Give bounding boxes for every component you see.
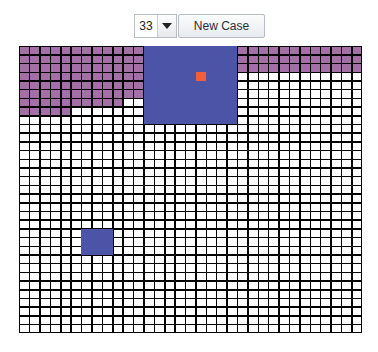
cell-empty[interactable] — [92, 324, 103, 333]
cell-empty[interactable] — [320, 324, 331, 333]
cell-empty[interactable] — [227, 324, 238, 333]
chevron-down-icon[interactable] — [158, 15, 176, 37]
marker — [196, 72, 206, 81]
cell-empty[interactable] — [268, 324, 279, 333]
cell-empty[interactable] — [175, 324, 186, 333]
size-select-value: 33 — [135, 15, 158, 37]
cell-empty[interactable] — [81, 324, 92, 333]
new-case-button[interactable]: New Case — [178, 14, 265, 38]
cell-empty[interactable] — [19, 324, 30, 333]
cell-empty[interactable] — [352, 324, 363, 333]
cell-empty[interactable] — [71, 324, 82, 333]
cell-empty[interactable] — [165, 324, 176, 333]
cell-empty[interactable] — [113, 324, 124, 333]
cell-empty[interactable] — [102, 324, 113, 333]
cell-empty[interactable] — [331, 324, 342, 333]
cell-empty[interactable] — [196, 324, 207, 333]
cell-empty[interactable] — [341, 324, 352, 333]
cell-empty[interactable] — [300, 324, 311, 333]
cell-empty[interactable] — [289, 324, 300, 333]
cell-empty[interactable] — [216, 324, 227, 333]
cell-empty[interactable] — [237, 324, 248, 333]
cell-empty[interactable] — [144, 324, 155, 333]
cell-empty[interactable] — [185, 324, 196, 333]
cell-empty[interactable] — [258, 324, 269, 333]
cell-empty[interactable] — [248, 324, 259, 333]
cell-empty[interactable] — [133, 324, 144, 333]
cell-empty[interactable] — [310, 324, 321, 333]
cell-empty[interactable] — [29, 324, 40, 333]
toolbar: 33 New Case — [0, 14, 378, 40]
cell-empty[interactable] — [154, 324, 165, 333]
cell-empty[interactable] — [279, 324, 290, 333]
game-board[interactable] — [19, 46, 362, 333]
large-block[interactable] — [144, 46, 238, 124]
cell-empty[interactable] — [40, 324, 51, 333]
cell-empty[interactable] — [206, 324, 217, 333]
cell-empty[interactable] — [123, 324, 134, 333]
cell-empty[interactable] — [50, 324, 61, 333]
cell-empty[interactable] — [61, 324, 72, 333]
size-select[interactable]: 33 — [134, 14, 177, 38]
small-block[interactable] — [81, 229, 112, 255]
